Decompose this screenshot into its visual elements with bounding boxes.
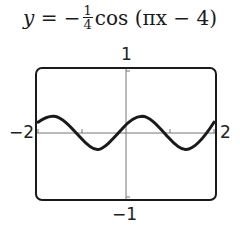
xmax-label: 2 (220, 123, 231, 141)
graph-window (0, 0, 240, 230)
ymax-label: 1 (121, 45, 132, 63)
xmin-label: −2 (9, 123, 34, 141)
ymin-label: −1 (112, 205, 137, 223)
